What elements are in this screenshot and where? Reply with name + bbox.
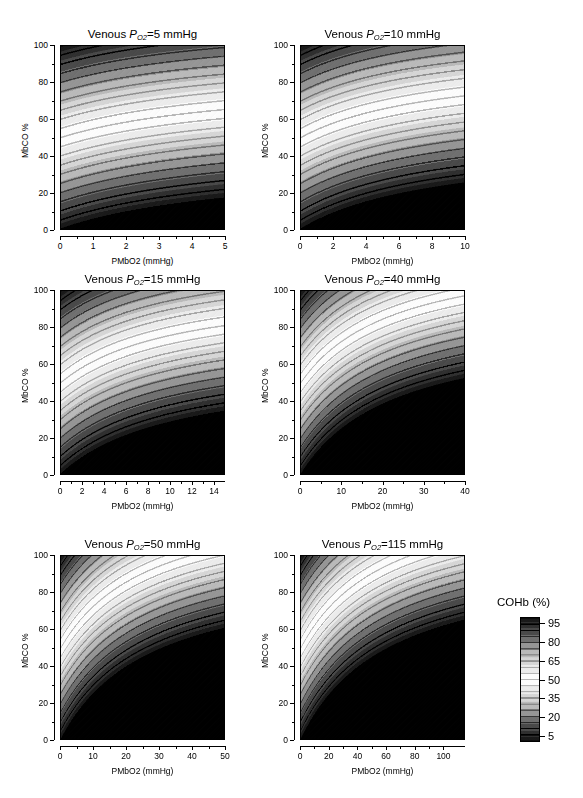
y-tick <box>290 666 294 667</box>
panel-6: Venous PO2=115 mmHg020406080100PMbO2 (mm… <box>0 0 583 798</box>
colorbar-tick-label: 50 <box>548 674 560 685</box>
title-symbol: PO2 <box>363 538 381 550</box>
panel-title: Venous PO2=115 mmHg <box>300 537 465 553</box>
colorbar-tick-label: 20 <box>548 712 560 723</box>
x-tick-minor <box>314 746 315 749</box>
y-tick <box>290 740 294 741</box>
x-axis-line <box>300 746 465 747</box>
x-tick-label: 80 <box>410 752 419 761</box>
y-tick-minor <box>292 611 295 612</box>
x-tick <box>415 746 416 750</box>
y-tick-label: 100 <box>264 551 288 560</box>
x-axis-label: PMbO2 (mmHg) <box>300 766 465 776</box>
y-tick-minor <box>292 648 295 649</box>
x-tick <box>386 746 387 750</box>
colorbar-canvas <box>521 618 539 741</box>
colorbar-tick-label: 80 <box>548 637 560 648</box>
legend-title: COHb (%) <box>497 596 550 608</box>
title-suffix: =115 mmHg <box>381 538 443 550</box>
contour-plot-area <box>300 555 465 740</box>
y-tick-label: 20 <box>264 699 288 708</box>
y-tick-label: 80 <box>264 588 288 597</box>
colorbar-tick-label: 5 <box>548 730 554 741</box>
y-tick-label: 0 <box>264 736 288 745</box>
y-tick <box>290 703 294 704</box>
contour-figure: Venous PO2=5 mmHg012345PMbO2 (mmHg)02040… <box>0 0 583 798</box>
x-tick-label: 60 <box>381 752 390 761</box>
colorbar-tick-label: 95 <box>548 618 560 629</box>
contour-canvas <box>301 556 464 739</box>
colorbar-tick <box>540 698 545 699</box>
colorbar-tick <box>540 642 545 643</box>
x-tick <box>443 746 444 750</box>
y-tick-label: 60 <box>264 625 288 634</box>
colorbar <box>520 617 540 742</box>
title-prefix: Venous <box>322 538 364 550</box>
x-tick-label: 0 <box>298 752 303 761</box>
y-tick <box>290 592 294 593</box>
x-tick <box>329 746 330 750</box>
x-tick-label: 40 <box>353 752 362 761</box>
colorbar-tick <box>540 736 545 737</box>
colorbar-tick <box>540 717 545 718</box>
y-tick-minor <box>292 574 295 575</box>
colorbar-tick-label: 65 <box>548 655 560 666</box>
colorbar-tick <box>540 680 545 681</box>
x-tick <box>300 746 301 750</box>
y-axis-label: MbCO % <box>260 633 270 667</box>
y-tick-minor <box>292 685 295 686</box>
y-tick <box>290 555 294 556</box>
colorbar-tick <box>540 661 545 662</box>
y-axis-line <box>294 555 295 740</box>
y-tick-minor <box>292 722 295 723</box>
x-tick <box>357 746 358 750</box>
x-tick-minor <box>372 746 373 749</box>
x-tick-minor <box>343 746 344 749</box>
colorbar-tick <box>540 623 545 624</box>
x-tick-minor <box>400 746 401 749</box>
colorbar-tick-label: 35 <box>548 693 560 704</box>
x-tick-label: 100 <box>436 752 450 761</box>
y-tick <box>290 629 294 630</box>
x-tick-minor <box>429 746 430 749</box>
x-tick-label: 20 <box>324 752 333 761</box>
